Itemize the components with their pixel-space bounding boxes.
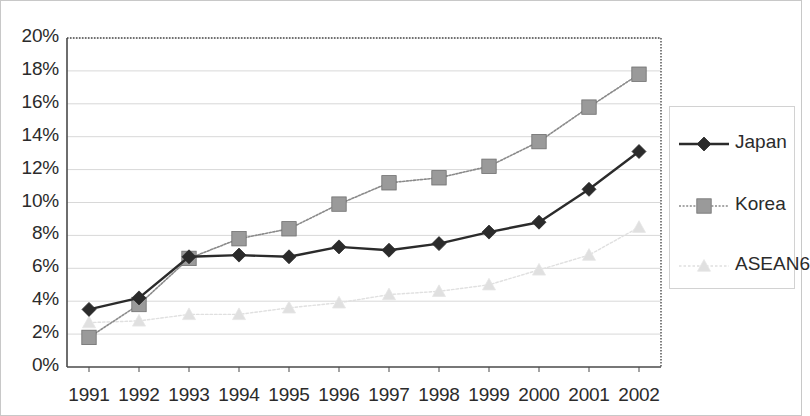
legend-marker-korea [679,199,729,213]
legend-markers [1,1,803,416]
legend-label-japan: Japan [735,131,787,153]
legend-label-korea: Korea [735,193,786,215]
legend-marker-japan [679,137,729,151]
legend-marker-asean6 [679,260,729,272]
legend-label-asean6: ASEAN6 [735,253,810,275]
